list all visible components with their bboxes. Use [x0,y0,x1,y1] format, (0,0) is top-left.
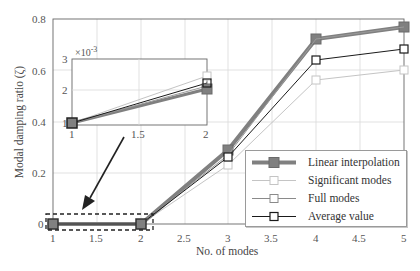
inset-ytick-1: 1 [62,117,68,129]
inset-ytick-2: 2 [62,84,68,96]
ytick-0.8: 0.8 [32,13,46,25]
dark-line-hollow-square-icon [252,209,296,224]
x-axis-label: No. of modes [196,245,258,257]
inset-chart [67,59,212,128]
xtick-4: 4 [313,232,319,244]
legend-item-average-value: Average value [246,208,406,225]
legend: Linear interpolation Significant modes F… [245,150,407,227]
thick-line-filled-square-icon [252,155,296,170]
ytick-0.2: 0.2 [32,167,46,179]
inset-xtick-2: 2 [203,128,209,140]
ytick-0.6: 0.6 [32,65,46,77]
xtick-1: 1 [50,232,56,244]
light-line-hollow-square-icon [252,173,296,188]
line-chart [0,0,420,271]
inset-xtick-1.5: 1.5 [131,128,145,140]
legend-item-significant-modes: Significant modes [246,172,406,189]
legend-item-linear-interpolation: Linear interpolation [246,154,406,171]
inset-multiplier: ×10-3 [75,44,97,59]
zoom-arrow [82,137,124,210]
xtick-2.5: 2.5 [177,232,191,244]
y-axis-label: Modal damping ratio (ζ) [13,57,25,187]
xtick-3.5: 3.5 [264,232,278,244]
xtick-1.5: 1.5 [89,232,103,244]
gray-line-hollow-square-icon [252,191,296,206]
xtick-3: 3 [225,232,231,244]
xtick-2: 2 [138,232,144,244]
inset-ytick-3: 3 [62,53,68,65]
ytick-0.4: 0.4 [32,116,46,128]
xtick-5: 5 [401,232,407,244]
ytick-0: 0 [38,218,44,230]
xtick-4.5: 4.5 [352,232,366,244]
inset-xtick-1: 1 [69,128,75,140]
legend-item-full-modes: Full modes [246,190,406,207]
